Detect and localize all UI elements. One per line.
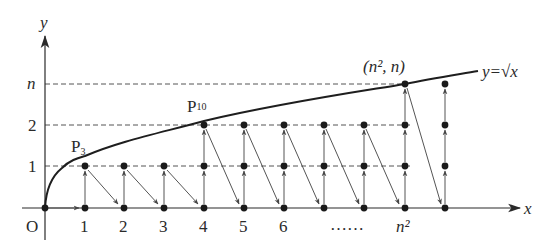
x-tick-2: 2: [119, 217, 128, 236]
sqrt-curve: [45, 71, 478, 208]
curve-label: y=√x: [480, 62, 518, 81]
x-tick-5: 5: [239, 217, 248, 236]
diagonal-arrows: [88, 88, 441, 204]
point-p10-label: P10: [187, 97, 206, 116]
dashed-guides: [45, 84, 410, 166]
origin-label: O: [26, 217, 38, 236]
x-tick-3: 3: [159, 217, 168, 236]
point-p3-label: P3: [71, 137, 85, 157]
y-axis-label: y: [38, 13, 48, 32]
point-top-label: (n², n): [363, 57, 405, 76]
origin-point: [42, 205, 49, 212]
diagram-canvas: y x O n 2 1 1 2 3 4 5 6 …… n² P3 P10 (n²…: [0, 0, 553, 251]
x-tick-4: 4: [199, 217, 208, 236]
x-axis-label: x: [523, 199, 532, 218]
y-tick-n: n: [27, 74, 36, 93]
y-tick-1: 1: [28, 157, 37, 176]
x-tick-6: 6: [279, 217, 288, 236]
x-tick-ellipsis: ……: [330, 215, 364, 234]
x-tick-1: 1: [80, 217, 89, 236]
y-tick-2: 2: [28, 116, 37, 135]
x-tick-n-squared: n²: [396, 217, 411, 236]
lattice-points: [42, 81, 449, 212]
